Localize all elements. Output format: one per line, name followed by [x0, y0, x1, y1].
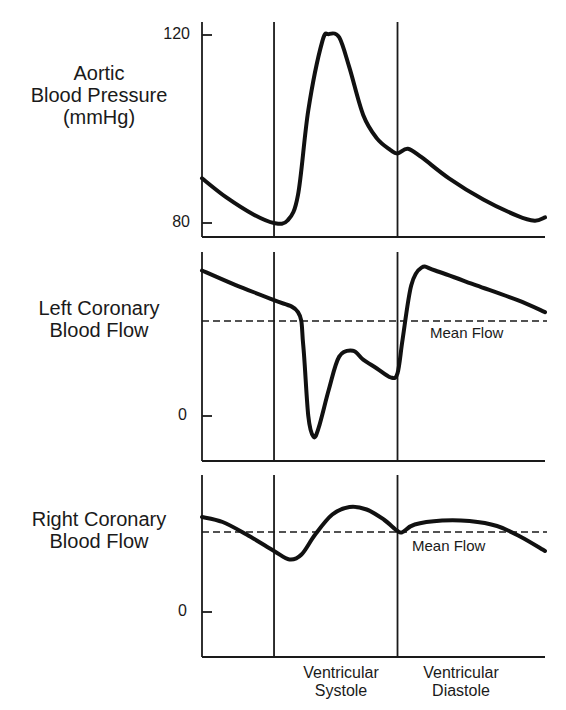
phase-line: Ventricular — [408, 664, 514, 682]
ylabel-line: Blood Pressure — [10, 84, 188, 106]
ventricular-systole-label: Ventricular Systole — [288, 664, 394, 700]
aortic-pressure-ylabel: Aortic Blood Pressure (mmHg) — [10, 62, 188, 128]
phase-line: Systole — [288, 682, 394, 700]
ylabel-line: Aortic — [10, 62, 188, 84]
left-coronary-ylabel: Left Coronary Blood Flow — [10, 297, 188, 341]
tick-label-80: 80 — [150, 213, 190, 231]
tick-label-120: 120 — [150, 25, 190, 43]
right-mean-flow-label: Mean Flow — [412, 537, 485, 554]
phase-line: Diastole — [408, 682, 514, 700]
ylabel-line: Blood Flow — [10, 530, 188, 552]
ylabel-line: Left Coronary — [10, 297, 188, 319]
right-coronary-ylabel: Right Coronary Blood Flow — [10, 508, 188, 552]
ylabel-line: Right Coronary — [10, 508, 188, 530]
tick-label-zero-left: 0 — [147, 406, 187, 424]
data-curve — [202, 507, 545, 560]
ylabel-line: Blood Flow — [10, 319, 188, 341]
curves-group — [202, 33, 545, 559]
data-curve — [202, 33, 545, 223]
data-curve — [202, 267, 545, 438]
tick-label-zero-right: 0 — [147, 602, 187, 620]
ylabel-line: (mmHg) — [10, 106, 188, 128]
ventricular-diastole-label: Ventricular Diastole — [408, 664, 514, 700]
phase-line: Ventricular — [288, 664, 394, 682]
left-mean-flow-label: Mean Flow — [430, 324, 503, 341]
